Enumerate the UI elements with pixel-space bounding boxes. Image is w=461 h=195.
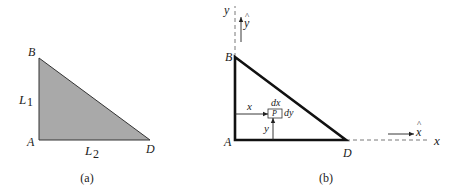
- vertex-b-label: B: [28, 45, 36, 59]
- triangle-outline: [235, 57, 346, 140]
- svg-text:2: 2: [93, 147, 99, 161]
- y-distance-label: y: [263, 122, 269, 134]
- figure-b: y y ^ x ^ x B A D P dx dy x y (b): [223, 3, 440, 185]
- side-label-l1: L 1: [18, 92, 33, 109]
- svg-text:L: L: [84, 143, 92, 158]
- x-axis-label: x: [433, 133, 440, 148]
- caption-b: (b): [319, 171, 333, 185]
- vertex-a-label: A: [223, 135, 232, 149]
- svg-text:1: 1: [27, 95, 33, 109]
- y-axis-label: y: [223, 3, 230, 17]
- vertex-b-label: B: [225, 50, 233, 64]
- caption-a: (a): [80, 171, 93, 185]
- side-label-l2: L 2: [84, 143, 99, 161]
- vertex-d-label: D: [145, 142, 155, 156]
- triangle-filled: [39, 58, 150, 140]
- dy-label: dy: [284, 107, 294, 118]
- vertex-d-label: D: [342, 146, 352, 160]
- x-distance-label: x: [246, 100, 252, 112]
- svg-text:L: L: [18, 92, 26, 107]
- point-p-label: P: [271, 109, 277, 118]
- dx-label: dx: [271, 97, 281, 108]
- vertex-a-label: A: [26, 135, 35, 149]
- diagram-canvas: B A D L 1 L 2 (a) y y ^ x ^ x B A D: [0, 0, 461, 195]
- figure-a: B A D L 1 L 2 (a): [18, 45, 155, 185]
